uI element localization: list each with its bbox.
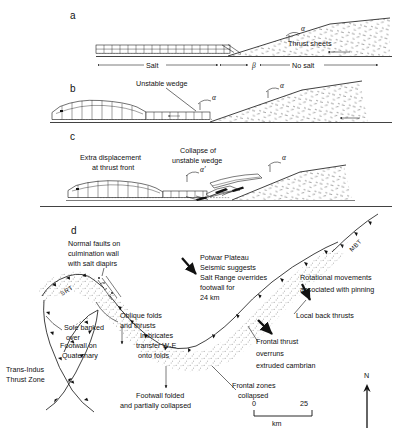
panel-d-sole-banked-line1: Sole banked bbox=[64, 323, 104, 332]
panel-d-footwall-folded-line2: and partially collapsed bbox=[120, 401, 191, 410]
panel-d-potwar-line5: 24 km bbox=[200, 293, 220, 302]
panel-d-frontal-thrust-line1: Frontal thrust bbox=[256, 337, 298, 346]
panel-c-alpha-prime-label: α′ bbox=[200, 165, 206, 174]
panel-a-thrust-sheets-label: Thrust sheets bbox=[288, 39, 332, 48]
panel-a-no-salt-label-top: No salt bbox=[292, 61, 314, 70]
panel-d-potwar-line2: Seismic suggests bbox=[200, 263, 256, 272]
panel-d-oblique-line1: Oblique folds bbox=[120, 311, 162, 320]
panel-d-scale-min: 0 bbox=[252, 399, 256, 408]
panel-c-extra-disp-line2: at thrust front bbox=[92, 163, 134, 172]
panel-a-beta-label: β bbox=[251, 61, 256, 70]
panel-c-letter: c bbox=[70, 131, 75, 142]
panel-d-frontal-zones-line1: Frontal zones bbox=[232, 381, 276, 390]
panel-d-potwar-line4: footwall for bbox=[200, 283, 235, 292]
panel-d-footwall-quat-line1: Footwall on bbox=[60, 341, 97, 350]
panel-d-scale-max: 25 bbox=[300, 399, 308, 408]
panel-a-brick-sheets bbox=[96, 45, 241, 54]
panel-d-imbricates-line3: onto folds bbox=[138, 351, 170, 360]
panel-c-collapse-line1: Collapse of bbox=[180, 146, 216, 155]
panel-d-rotational-line1: Rotational movements bbox=[300, 273, 372, 282]
panel-d-letter: d bbox=[71, 225, 77, 236]
panel-d-footwall-folded-line1: Footwall folded bbox=[136, 391, 184, 400]
panel-d-local-back-thrusts: Local back thrusts bbox=[296, 311, 354, 320]
panel-d-potwar-line1: Potwar Plateau bbox=[200, 253, 249, 262]
panel-a-letter: a bbox=[70, 10, 76, 21]
figure-canvas: a α Thrust sh bbox=[0, 0, 404, 441]
panel-d-north-label: N bbox=[364, 371, 369, 380]
panel-d-trans-indus-line1: Trans-Indus bbox=[6, 365, 44, 374]
panel-d-trans-indus-line2: Thrust Zone bbox=[6, 375, 45, 384]
panel-d-frontal-thrust-line2: overruns bbox=[256, 349, 284, 358]
panel-d-rotational-line2: associated with pinning bbox=[300, 285, 374, 294]
background bbox=[0, 0, 404, 441]
panel-d-footwall-quat-line2: Quaternary bbox=[62, 351, 98, 360]
panel-d-potwar-line3: Salt Range overrides bbox=[200, 273, 268, 282]
panel-b-unstable-wedge-label: Unstable wedge bbox=[136, 79, 188, 88]
panel-c-extra-disp-line1: Extra displacement bbox=[80, 153, 141, 162]
panel-c-collapse-line2: unstable wedge bbox=[172, 156, 222, 165]
panel-d-normal-faults-line1: Normal faults on bbox=[68, 239, 120, 248]
geological-figure: a α Thrust sh bbox=[0, 0, 404, 441]
panel-d-frontal-thrust-line3: extruded cambrian bbox=[256, 361, 316, 370]
panel-a-salt-label-top: Salt bbox=[146, 61, 158, 70]
panel-d-imbricates-line1: Imbricates bbox=[140, 331, 174, 340]
panel-d-normal-faults-line3: with salt diapirs bbox=[67, 259, 118, 268]
panel-d-scale-unit: km bbox=[272, 419, 282, 428]
panel-d-imbricates-line2: transfer W-E bbox=[136, 341, 176, 350]
panel-b-letter: b bbox=[70, 83, 76, 94]
panel-d-oblique-line2: and thrusts bbox=[120, 321, 156, 330]
panel-d-normal-faults-line2: culmination wall bbox=[68, 249, 119, 258]
